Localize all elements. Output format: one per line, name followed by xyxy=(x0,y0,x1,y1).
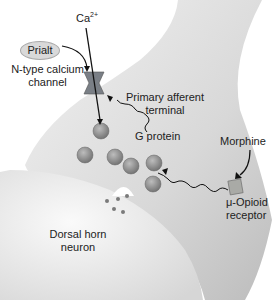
mu-opioid-receptor-icon xyxy=(228,179,243,195)
prialt-label: Prialt xyxy=(20,41,60,60)
g-protein-label: G protein xyxy=(135,130,180,143)
dorsal-horn-neuron-label: Dorsal hornneuron xyxy=(38,228,118,254)
primary-afferent-terminal-label: Primary afferentterminal xyxy=(120,91,210,117)
morphine-label: Morphine xyxy=(220,135,266,148)
n-type-calcium-channel-label: N-type calciumchannel xyxy=(10,63,85,89)
diagram: Ca2+ Prialt N-type calciumchannel Primar… xyxy=(0,0,277,300)
calcium-ion-label: Ca2+ xyxy=(76,8,98,25)
mu-opioid-receptor-label: μ-Opioidreceptor xyxy=(226,196,268,222)
